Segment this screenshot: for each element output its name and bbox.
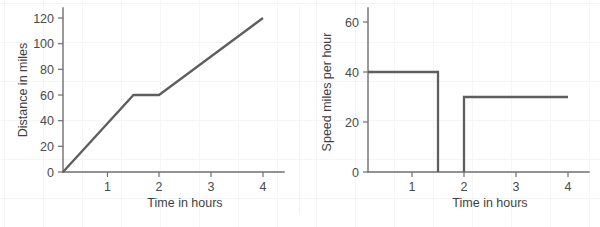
y-tick-label: 60 — [345, 16, 359, 30]
x-tick-label: 2 — [461, 180, 468, 194]
y-tick-label: 100 — [33, 37, 54, 51]
y-axis-ticks — [363, 22, 368, 172]
figure-container: 120 100 80 60 40 20 0 1 2 3 4 Time in ho… — [0, 0, 600, 227]
speed-step-segment-2 — [464, 97, 568, 172]
y-tick-label: 120 — [33, 12, 54, 26]
distance-chart-svg: 120 100 80 60 40 20 0 1 2 3 4 Time in ho… — [0, 0, 300, 227]
x-axis-title: Time in hours — [452, 196, 527, 210]
y-tick-label: 0 — [47, 166, 54, 180]
y-axis-title: Distance in miles — [16, 43, 30, 137]
distance-chart-panel: 120 100 80 60 40 20 0 1 2 3 4 Time in ho… — [0, 0, 300, 227]
y-tick-label: 40 — [345, 66, 359, 80]
x-tick-label: 3 — [513, 180, 520, 194]
x-tick-label: 1 — [409, 180, 416, 194]
y-axis-ticks — [58, 18, 63, 172]
x-tick-label: 2 — [156, 180, 163, 194]
x-axis-title: Time in hours — [147, 196, 222, 210]
distance-data-line — [63, 18, 263, 172]
x-tick-label: 3 — [208, 180, 215, 194]
speed-chart-panel: 60 40 20 0 1 2 3 4 Time in hours Speed m… — [300, 0, 600, 227]
speed-chart-svg: 60 40 20 0 1 2 3 4 Time in hours Speed m… — [300, 0, 600, 227]
x-axis-ticks — [108, 172, 264, 177]
y-axis-title: Speed miles per hour — [320, 33, 334, 152]
x-tick-label: 1 — [104, 180, 111, 194]
y-tick-label: 20 — [345, 116, 359, 130]
x-tick-label: 4 — [260, 180, 267, 194]
y-tick-label: 0 — [352, 166, 359, 180]
y-tick-label: 60 — [40, 89, 54, 103]
y-tick-label: 80 — [40, 63, 54, 77]
y-tick-label: 40 — [40, 114, 54, 128]
x-axis-ticks — [412, 172, 568, 177]
speed-step-segment-1 — [368, 72, 438, 172]
x-tick-label: 4 — [565, 180, 572, 194]
y-tick-label: 20 — [40, 140, 54, 154]
